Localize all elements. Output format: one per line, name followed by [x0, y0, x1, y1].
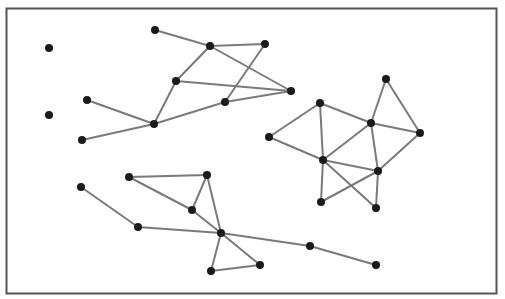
graph-node — [203, 171, 211, 179]
graph-node — [261, 40, 269, 48]
graph-node — [316, 99, 324, 107]
graph-node — [172, 77, 180, 85]
graph-node — [207, 267, 215, 275]
graph-node — [150, 120, 158, 128]
graph-node — [206, 42, 214, 50]
graph-node — [221, 98, 229, 106]
graph-node — [317, 198, 325, 206]
graph-node — [374, 167, 382, 175]
graph-node — [372, 261, 380, 269]
graph-node — [265, 133, 273, 141]
graph-node — [77, 183, 85, 191]
graph-node — [83, 96, 91, 104]
graph-node — [306, 242, 314, 250]
graph-node — [256, 261, 264, 269]
graph-node — [151, 26, 159, 34]
graph-node — [367, 119, 375, 127]
graph-node — [372, 204, 380, 212]
graph-node — [217, 229, 225, 237]
graph-node — [134, 223, 142, 231]
graph-node — [188, 206, 196, 214]
graph-node — [45, 44, 53, 52]
graph-node — [416, 129, 424, 137]
graph-node — [319, 156, 327, 164]
graph-node — [125, 173, 133, 181]
graph-node — [45, 111, 53, 119]
graph-node — [382, 75, 390, 83]
graph-node — [78, 136, 86, 144]
graph-node — [287, 87, 295, 95]
diagram-frame — [7, 9, 497, 294]
graph-canvas — [0, 0, 505, 299]
